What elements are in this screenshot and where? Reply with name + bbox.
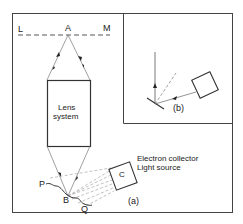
ray-a-left <box>47 35 68 80</box>
arrow-icon <box>153 83 157 88</box>
lens-label-2: system <box>53 113 78 121</box>
lens-label-1: Lens <box>58 104 75 112</box>
dashed-ray-b <box>155 73 176 104</box>
ray-b-left <box>47 146 68 196</box>
label-c: C <box>119 171 125 179</box>
c-desc-2: Light source <box>137 164 181 172</box>
ray-b-right <box>68 146 90 196</box>
label-b: B <box>63 196 69 205</box>
c-desc-1: Electron collector <box>137 155 198 163</box>
label-m: M <box>103 24 111 33</box>
arrow-icon <box>172 96 177 100</box>
box-b <box>192 72 219 99</box>
caption-b: (b) <box>173 104 184 113</box>
label-p: P <box>39 180 45 189</box>
caption-a: (a) <box>128 197 139 206</box>
label-l: L <box>18 25 23 34</box>
diagram-canvas <box>0 0 243 224</box>
label-a: A <box>65 24 71 33</box>
label-q: Q <box>81 205 88 214</box>
